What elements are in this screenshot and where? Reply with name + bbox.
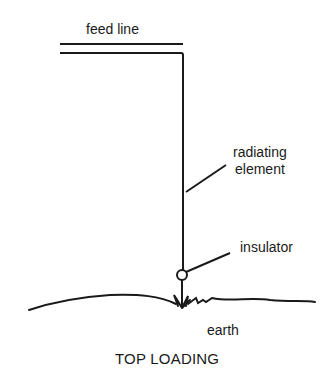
diagram-title: TOP LOADING (115, 351, 219, 366)
insulator-label: insulator (240, 240, 293, 254)
earth-label: earth (207, 323, 239, 337)
radiating-element-label-line1: radiating (233, 145, 287, 159)
antenna-diagram (0, 0, 333, 369)
feed-line-label: feed line (86, 22, 139, 36)
earth-surface (29, 295, 315, 310)
insulator-pointer (186, 253, 230, 272)
radiating-element-pointer (186, 165, 226, 192)
feed-line-lower-conductor (60, 53, 183, 270)
insulator-icon (177, 270, 187, 280)
radiating-element-label-line2: element (235, 162, 285, 176)
